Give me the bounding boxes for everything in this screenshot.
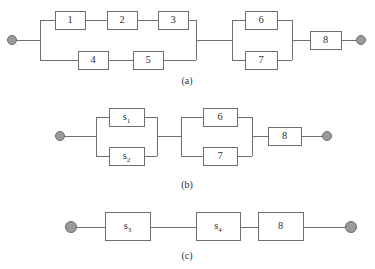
block-a-2-label: 2: [119, 14, 124, 25]
panel-c: s3 s4 8 (c): [66, 212, 357, 262]
block-a-6-label: 6: [258, 14, 263, 25]
block-a-7-label: 7: [258, 54, 263, 65]
block-b-8-label: 8: [282, 130, 287, 141]
panel-a: 1 2 3 4 5 6 7: [8, 11, 366, 87]
block-c-8-label: 8: [278, 220, 283, 231]
block-a-1-label: 1: [67, 14, 72, 25]
terminal-sink-c: [346, 222, 357, 233]
block-a-4-label: 4: [90, 54, 96, 65]
caption-a: (a): [181, 75, 192, 87]
block-a-8-label: 8: [323, 34, 328, 45]
terminal-source-c: [66, 222, 77, 233]
terminal-source-a: [8, 36, 17, 45]
terminal-sink-a: [357, 36, 366, 45]
block-a-3-label: 3: [170, 14, 175, 25]
block-a-5-label: 5: [145, 54, 150, 65]
reliability-block-diagram-figure: 1 2 3 4 5 6 7: [0, 0, 375, 269]
caption-b: (b): [181, 179, 193, 191]
diagram-canvas: 1 2 3 4 5 6 7: [0, 0, 375, 269]
panel-b: s1 s2 6 7 8 (b): [56, 108, 332, 191]
block-b-6-label: 6: [217, 111, 222, 122]
terminal-source-b: [56, 132, 65, 141]
terminal-sink-b: [323, 132, 332, 141]
caption-c: (c): [181, 250, 192, 262]
block-b-7-label: 7: [217, 150, 222, 161]
